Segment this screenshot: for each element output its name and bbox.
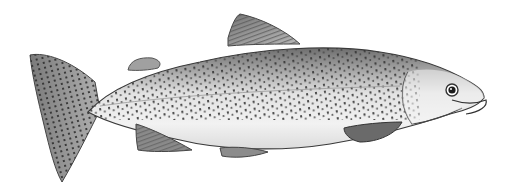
adipose-fin — [128, 58, 160, 71]
eye — [446, 84, 458, 96]
caudal-fin — [30, 54, 100, 182]
illustration-canvas: Rainbow trout illustration — [0, 0, 514, 192]
trout-illustration — [0, 0, 514, 192]
dorsal-fin — [228, 14, 300, 46]
